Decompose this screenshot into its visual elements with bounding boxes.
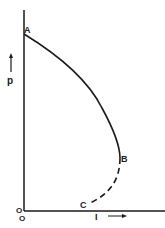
- curve-solid-a-b: [24, 34, 120, 158]
- curve-dashed-b-c: [90, 158, 120, 203]
- point-label-c: C: [80, 200, 87, 210]
- diagram-canvas: p I O O A B C: [0, 0, 165, 228]
- x-axis-label: I: [95, 212, 98, 222]
- y-axis-arrow-icon: [9, 53, 13, 72]
- point-label-a: A: [24, 25, 31, 35]
- x-axis-arrow-icon: [108, 214, 127, 218]
- y-axis-label: p: [7, 75, 13, 86]
- point-label-b: B: [121, 154, 128, 164]
- origin-label-2: O: [19, 214, 25, 223]
